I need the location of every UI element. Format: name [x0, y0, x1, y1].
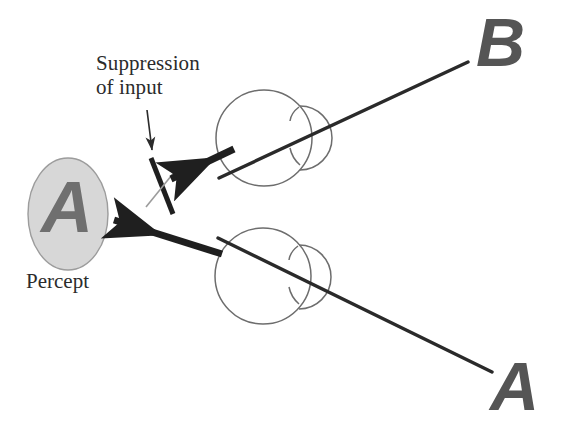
- arrow-dominant-signal: [114, 220, 222, 254]
- ray-line-a-to-bottom-eye: [218, 238, 492, 372]
- stimulus-letter-b: B: [476, 8, 525, 76]
- annotation-pointer-arrow: [147, 110, 152, 150]
- suppression-label: Suppressionof input: [96, 52, 200, 99]
- binocular-rivalry-figure: Suppressionof input Percept B A A: [0, 0, 562, 435]
- eye-bottom-limbus-lower: [289, 287, 299, 304]
- suppression-mark-light-stroke: [146, 165, 180, 207]
- eye-top-limbus-lower: [290, 148, 300, 165]
- suppression-label-line1: Suppression: [96, 51, 200, 75]
- eye-bottom: [215, 228, 331, 324]
- suppression-label-line2: of input: [96, 75, 163, 99]
- stimulus-letter-a: A: [490, 352, 539, 420]
- percept-label: Percept: [26, 270, 89, 294]
- ray-line-b-to-top-eye: [219, 62, 468, 178]
- eye-top-limbus-upper: [290, 107, 299, 121]
- eye-bottom-cornea: [299, 245, 331, 309]
- suppression-mark: [146, 158, 180, 214]
- percept-letter-a: A: [41, 171, 93, 243]
- eye-bottom-limbus-upper: [289, 246, 298, 260]
